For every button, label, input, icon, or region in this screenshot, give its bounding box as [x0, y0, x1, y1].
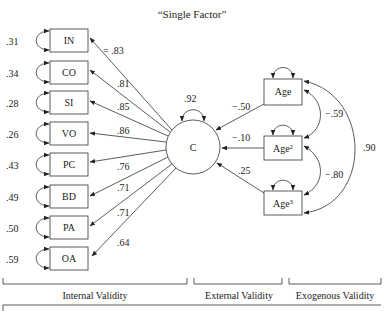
loading-value: .71: [117, 182, 130, 193]
variance-loop-icon: [273, 68, 293, 79]
bracket-external: [194, 278, 282, 284]
correlation-arcs: [304, 81, 355, 213]
bracket-label-external: External Validity: [205, 290, 273, 301]
factor-loadings: [90, 38, 176, 256]
loading-value: .85: [117, 101, 130, 112]
correlation-value: −.59: [325, 108, 343, 119]
error-variance-loop-icon: [36, 155, 49, 174]
error-variance-loop-icon: [36, 31, 49, 50]
error-variance-loop-icon: [36, 218, 49, 237]
correlation-value: .90: [363, 142, 376, 153]
indicator-CO: CO .34: [6, 61, 88, 84]
path-value: .25: [238, 165, 251, 176]
indicator-SI: SI .28: [6, 91, 88, 114]
path-value: −.10: [232, 132, 250, 143]
variance-loop-icon: [273, 125, 293, 135]
error-value: .43: [6, 160, 19, 171]
indicator-label: BD: [62, 191, 76, 202]
loading-arrow-icon: [90, 164, 172, 226]
indicator-IN: IN .31: [6, 29, 88, 52]
indicator-PC: PC .43: [6, 153, 88, 176]
loading-value: .64: [117, 237, 130, 248]
loading-arrow-icon: [90, 70, 170, 132]
correlation-arc-icon: [304, 81, 355, 213]
predictor-age: Age: [264, 68, 302, 106]
error-variance-loop-icon: [36, 63, 49, 82]
indicator-label: PA: [63, 222, 76, 233]
error-variance-loop-icon: [36, 187, 49, 206]
error-variance-loop-icon: [36, 249, 49, 268]
factor-variance: .92: [184, 93, 197, 104]
correlation-arc-icon: [304, 90, 321, 138]
indicator-label: VO: [62, 128, 76, 139]
error-value: .26: [6, 129, 19, 140]
error-value: .28: [6, 98, 19, 109]
predictor-label: Age: [275, 86, 292, 97]
correlation-value: −.80: [325, 169, 343, 180]
bracket-label-exogenous: Exogenous Validity: [296, 290, 374, 301]
path-value: −.50: [232, 101, 250, 112]
error-value: .49: [6, 192, 19, 203]
error-value: .31: [6, 36, 19, 47]
indicator-BD: BD .49: [6, 185, 88, 208]
latent-factor-C: C .92: [166, 93, 220, 174]
bracket-label-internal: Internal Validity: [62, 290, 127, 301]
sem-diagram: “Single Factor” IN .31 CO .34 SI .28 VO …: [0, 0, 384, 311]
indicator-OA: OA .59: [6, 247, 88, 270]
indicator-label: PC: [63, 159, 76, 170]
indicator-label: SI: [65, 97, 74, 108]
error-variance-loop-icon: [36, 93, 49, 112]
correlation-arc-icon: [304, 146, 321, 195]
error-variance-loop-icon: [36, 124, 49, 143]
indicator-label: IN: [64, 35, 75, 46]
loading-value: .86: [117, 125, 130, 136]
bracket-exogenous: [289, 278, 381, 284]
variance-loop-icon: [273, 180, 293, 190]
indicator-label: OA: [62, 253, 77, 264]
bracket-internal: [3, 278, 187, 284]
indicator-PA: PA .50: [6, 216, 88, 239]
predictor-age-squared: Age2: [264, 125, 302, 160]
structural-paths: [216, 104, 264, 193]
factor-label: C: [190, 142, 197, 153]
loading-value: .71: [117, 207, 130, 218]
loading-value: .76: [117, 161, 130, 172]
error-value: .34: [6, 68, 19, 79]
indicator-label: CO: [62, 67, 76, 78]
indicator-VO: VO .26: [6, 122, 88, 145]
loading-value: .81: [117, 78, 130, 89]
bracket-overall: [3, 305, 381, 311]
factor-variance-loop-icon: [182, 110, 204, 121]
predictor-age-cubed: Age3: [264, 180, 302, 215]
diagram-title: “Single Factor”: [158, 8, 227, 20]
loading-arrow-icon: [92, 168, 176, 256]
error-value: .59: [6, 254, 19, 265]
error-value: .50: [6, 223, 19, 234]
loading-value: = .83: [103, 45, 124, 56]
